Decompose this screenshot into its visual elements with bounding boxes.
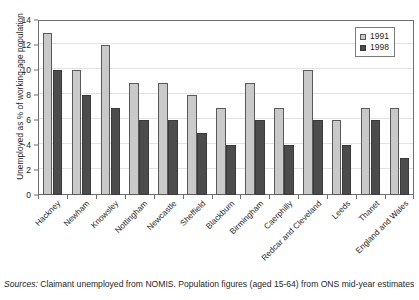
bar-1991 <box>72 70 82 195</box>
y-axis-tick-label: 4 <box>26 140 31 150</box>
bar-1998 <box>139 120 149 195</box>
bar-group <box>154 20 183 195</box>
bar-1998 <box>197 133 207 196</box>
bar-1998 <box>168 120 178 195</box>
bar-1991 <box>43 33 53 196</box>
bar-1991 <box>303 70 313 195</box>
x-axis-tick-label: Newham <box>63 199 92 228</box>
bar-group <box>212 20 241 195</box>
bar-group <box>327 20 356 195</box>
bar-1991 <box>332 120 342 195</box>
source-note: Sources: Claimant unemployed from NOMIS.… <box>4 279 419 289</box>
bar-group <box>38 20 67 195</box>
x-axis-tick-labels: HackneyNewhamKnowsleyNottinghamNewcastle… <box>38 199 414 279</box>
legend-entry-1991: 1991 <box>360 31 389 42</box>
bar-1991 <box>216 108 226 196</box>
bar-1998 <box>53 70 63 195</box>
bar-1991 <box>274 108 284 196</box>
bar-1991 <box>390 108 400 196</box>
legend-swatch-1998 <box>360 45 366 51</box>
bar-group <box>240 20 269 195</box>
y-axis-tick-label: 12 <box>22 40 31 50</box>
source-note-prefix: Sources: <box>4 279 38 289</box>
bar-1998 <box>111 108 121 196</box>
x-axis-tick-label: England and Wales <box>354 199 410 255</box>
x-axis-tick-label: Hackney <box>34 199 63 228</box>
legend-label-1998: 1998 <box>370 42 389 53</box>
bar-1991 <box>101 45 111 195</box>
source-note-text: Claimant unemployed from NOMIS. Populati… <box>38 279 414 289</box>
bar-group <box>67 20 96 195</box>
x-axis-tick-label: Thanet <box>357 199 381 223</box>
bar-group <box>269 20 298 195</box>
bar-1991 <box>129 83 139 196</box>
bar-1998 <box>400 158 410 196</box>
bar-1998 <box>342 145 352 195</box>
bar-group <box>96 20 125 195</box>
bar-1991 <box>245 83 255 196</box>
bar-1998 <box>226 145 236 195</box>
y-axis-tick-label: 10 <box>22 65 31 75</box>
bar-1991 <box>158 83 168 196</box>
bar-group <box>298 20 327 195</box>
bar-group <box>183 20 212 195</box>
x-axis-tick-label: Sheffield <box>179 199 208 228</box>
chart-legend: 1991 1998 <box>355 27 395 57</box>
legend-label-1991: 1991 <box>370 31 389 42</box>
x-axis-tick-label: Newcastle <box>145 199 178 232</box>
unemployment-bar-chart-figure: Unemployed as % of working-age populatio… <box>0 0 419 300</box>
y-axis-tick-label: 0 <box>26 190 31 200</box>
y-axis-tick-label: 2 <box>26 165 31 175</box>
bar-group <box>125 20 154 195</box>
y-axis-tick-labels: 02468101214 <box>0 20 38 195</box>
y-axis-tick-label: 6 <box>26 115 31 125</box>
bar-1991 <box>361 108 371 196</box>
bar-1991 <box>187 95 197 195</box>
y-axis-tick-label: 8 <box>26 90 31 100</box>
legend-swatch-1991 <box>360 34 366 40</box>
bar-1998 <box>313 120 323 195</box>
x-axis-tick-label: Leeds <box>330 199 352 221</box>
x-axis-tick-label: Redcar and Cleveland <box>259 199 323 263</box>
bar-1998 <box>371 120 381 195</box>
bar-1998 <box>284 145 294 195</box>
legend-entry-1998: 1998 <box>360 42 389 53</box>
bar-1998 <box>255 120 265 195</box>
y-axis-tick-label: 14 <box>22 15 31 25</box>
bar-1998 <box>82 95 92 195</box>
